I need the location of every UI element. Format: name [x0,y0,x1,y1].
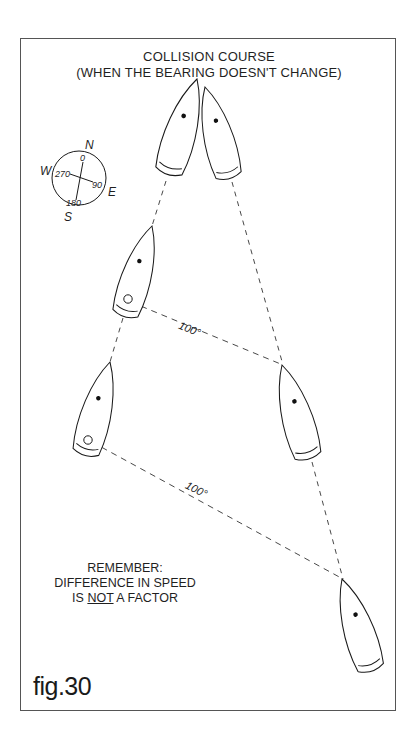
boat-lower-left [70,358,125,460]
compass-deg-north: 0 [80,153,85,163]
note-line-1: REMEMBER: [20,561,230,576]
compass-east: E [108,185,117,199]
bearing-line-2 [92,442,343,579]
collision-diagram: 100° 100° 0 90 180 270 N E S W [0,0,418,741]
note-line-3-post: A FACTOR [114,591,178,605]
compass-rose: 0 90 180 270 N E S W [40,138,117,224]
boat-mid-left [110,222,167,322]
observer-position-marker [124,295,132,303]
compass-deg-west: 270 [54,169,70,179]
note-emphasis-not: NOT [87,591,113,605]
bearing-line-1 [131,302,283,365]
course-line-left [152,181,166,226]
compass-south: S [64,210,72,224]
note-line-3: IS NOT A FACTOR [20,591,230,606]
compass-north: N [85,138,94,152]
bearing-label-2: 100° [184,479,210,500]
figure-caption: fig.30 [33,672,91,701]
course-line-right [232,182,283,365]
boat-bottom-right [327,574,386,676]
remember-note: REMEMBER: DIFFERENCE IN SPEED IS NOT A F… [20,561,230,606]
compass-deg-east: 90 [92,180,102,190]
compass-west: W [40,164,53,178]
observer-position-marker [84,436,92,444]
bearing-label-1: 100° [177,319,203,339]
note-line-2: DIFFERENCE IN SPEED [20,576,230,591]
course-line-left [110,318,123,362]
boat-mid-right [267,361,324,464]
course-line-right [312,462,343,579]
compass-deg-south: 180 [66,198,81,208]
note-line-3-pre: IS [72,591,87,605]
